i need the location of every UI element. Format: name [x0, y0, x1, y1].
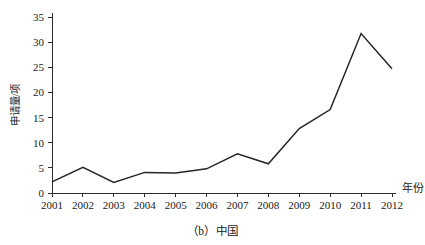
data-series-line — [52, 34, 392, 183]
x-tick-label: 2008 — [257, 199, 280, 211]
x-tick-label: 2012 — [381, 199, 403, 211]
y-tick-label: 15 — [33, 112, 45, 124]
x-axis-label: 年份 — [402, 181, 424, 194]
y-tick-label: 30 — [33, 36, 45, 48]
x-tick-label: 2002 — [72, 199, 94, 211]
y-tick-label: 20 — [33, 86, 45, 98]
x-axis-tick-labels: 2001200220032004200520062007200820092010… — [41, 199, 403, 211]
x-tick-label: 2009 — [288, 199, 311, 211]
x-tick-label: 2007 — [226, 199, 249, 211]
y-axis-tick-marks — [48, 17, 52, 193]
y-axis-tick-labels: 05101520253035 — [33, 11, 45, 199]
y-tick-label: 0 — [39, 187, 45, 199]
y-tick-label: 25 — [33, 61, 45, 73]
x-tick-label: 2004 — [134, 199, 157, 211]
figure-caption: （b）中国 — [0, 222, 425, 238]
x-tick-label: 2001 — [41, 199, 63, 211]
x-tick-label: 2011 — [350, 199, 372, 211]
x-tick-label: 2006 — [196, 199, 219, 211]
y-axis-label: 申请量/项 — [9, 83, 21, 127]
y-tick-label: 10 — [33, 137, 45, 149]
line-chart: 05101520253035 2001200220032004200520062… — [0, 0, 425, 245]
x-tick-label: 2005 — [165, 199, 188, 211]
x-axis-tick-marks — [52, 193, 392, 197]
x-tick-label: 2010 — [319, 199, 342, 211]
x-tick-label: 2003 — [103, 199, 126, 211]
y-tick-label: 35 — [33, 11, 45, 23]
chart-figure: 05101520253035 2001200220032004200520062… — [0, 0, 425, 245]
y-tick-label: 5 — [39, 162, 45, 174]
